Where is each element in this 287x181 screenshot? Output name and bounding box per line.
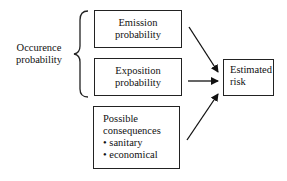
arrow-consequences-to-risk <box>187 94 218 140</box>
label-line-2: probability <box>6 54 72 66</box>
box-line: consequences <box>103 125 179 137</box>
box-line: probability <box>95 77 181 89</box>
box-line: probability <box>95 29 181 41</box>
estimated-risk-box: Estimated risk <box>223 59 274 96</box>
box-line: Possible <box>103 113 179 125</box>
emission-probability-box: Emission probability <box>94 10 182 48</box>
bullet-economical: • economical <box>103 149 179 161</box>
arrow-emission-to-risk <box>189 27 218 72</box>
brace-icon <box>74 11 88 97</box>
occurrence-probability-label: Occurence probability <box>6 42 72 66</box>
box-line: risk <box>230 76 274 88</box>
possible-consequences-box: Possible consequences • sanitary • econo… <box>93 106 180 169</box>
label-line-1: Occurence <box>6 42 72 54</box>
box-line: Exposition <box>95 65 181 77</box>
box-line: Emission <box>95 17 181 29</box>
bullet-sanitary: • sanitary <box>103 137 179 149</box>
exposition-probability-box: Exposition probability <box>94 58 182 96</box>
box-line: Estimated <box>230 64 274 76</box>
